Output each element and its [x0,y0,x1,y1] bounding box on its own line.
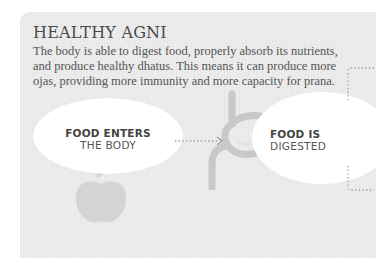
step-title: FOOD IS [270,128,350,140]
description-line: The body is able to digest food, properl… [33,44,363,59]
description-line: and produce healthy dhatus. This means i… [33,59,363,74]
apple-icon [70,168,132,226]
step-subtitle: THE BODY [58,139,158,151]
step-food-enters-label: FOOD ENTERS THE BODY [58,127,158,151]
step-title: FOOD ENTERS [58,127,158,139]
description-line: ojas, providing more immunity and more c… [33,74,363,89]
section-description: The body is able to digest food, properl… [33,44,363,89]
step-food-digested-label: FOOD IS DIGESTED [270,128,350,152]
step-subtitle: DIGESTED [270,140,350,152]
section-title: HEALTHY AGNI [33,23,167,42]
dotted-arrow-icon [175,136,227,146]
